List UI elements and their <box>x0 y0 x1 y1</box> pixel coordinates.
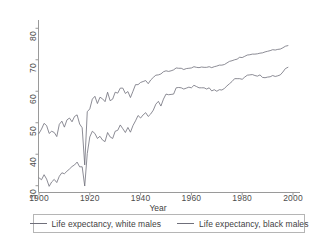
y-tick-label: 60 <box>28 90 38 108</box>
x-tick-label: 1980 <box>227 193 257 203</box>
y-tick-label: 40 <box>28 153 38 171</box>
x-axis-title: Year <box>0 203 316 213</box>
legend-label-white-males: Life expectancy, white males <box>52 219 161 229</box>
series-line <box>39 67 288 186</box>
legend-line-swatch-white-males <box>30 223 47 224</box>
series-line <box>39 46 288 165</box>
x-tick-label: 1940 <box>126 193 156 203</box>
y-tick-label: 80 <box>28 27 38 45</box>
legend-item-black-males[interactable]: Life expectancy, black males <box>177 219 308 229</box>
legend-item-white-males[interactable]: Life expectancy, white males <box>30 219 161 229</box>
x-tick-label: 2000 <box>278 193 308 203</box>
y-tick-label: 50 <box>28 122 38 140</box>
chart-legend: Life expectancy, white males Life expect… <box>33 214 305 233</box>
legend-line-swatch-black-males <box>177 223 194 224</box>
x-tick-label: 1960 <box>176 193 206 203</box>
x-tick-label: 1900 <box>24 193 54 203</box>
chart-figure: 304050607080 190019201940196019802000 Ye… <box>0 0 316 249</box>
y-tick-label: 70 <box>28 59 38 77</box>
data-series-lines <box>39 46 288 187</box>
legend-label-black-males: Life expectancy, black males <box>199 219 308 229</box>
x-tick-label: 1920 <box>75 193 105 203</box>
